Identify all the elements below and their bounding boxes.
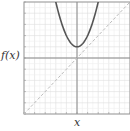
x-axis-label: x <box>74 116 80 129</box>
y-axis-label: f(x) <box>1 49 20 62</box>
chart-canvas <box>0 0 130 131</box>
